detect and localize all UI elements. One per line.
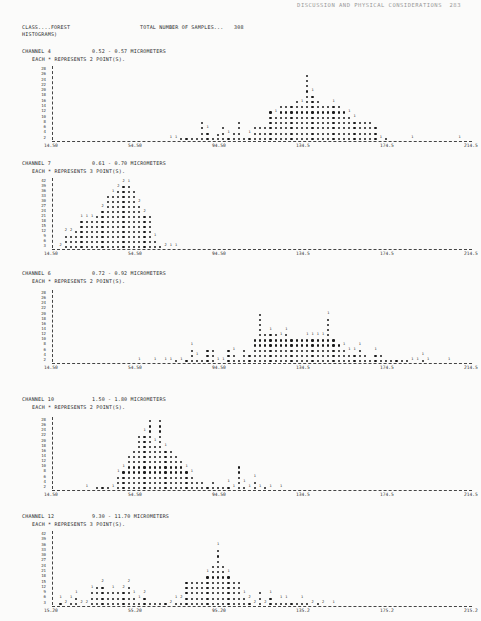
histogram-column: 1 [70,531,73,605]
star-mark [86,246,88,248]
star-mark [75,241,77,243]
star-mark [143,246,145,248]
star-mark [164,451,166,453]
star-mark [248,138,250,140]
star-mark [311,122,313,124]
histogram-column [96,417,99,489]
star-mark [254,344,256,346]
star-mark [206,587,208,589]
star-mark [191,360,193,362]
star-mark [285,344,287,346]
channel-title: CHANNEL 10 [22,396,54,402]
histogram-column: 1 [458,66,461,140]
star-mark [122,201,124,203]
histogram-column: 1 [448,290,451,362]
star-mark [217,550,219,552]
star-mark [332,111,334,113]
histogram-column: 1 [206,66,209,140]
channel-title: CHANNEL 6 [22,270,51,276]
star-mark [154,461,156,463]
star-mark [285,111,287,113]
y-axis-labels: 28 26 24 22 20 18 16 14 12 10 8 6 4 2 [30,417,46,489]
remainder-digit: 1 [332,600,334,605]
star-mark [101,221,103,223]
histogram-column: 1 [285,290,288,362]
histogram-column [238,417,241,489]
remainder-digit: 2 [170,600,172,605]
star-mark [75,603,77,605]
star-mark [149,231,151,233]
remainder-digit: 1 [259,484,261,489]
star-mark [285,133,287,135]
star-mark [233,138,235,140]
star-mark [311,101,313,103]
star-mark [317,339,319,341]
star-mark [280,355,282,357]
star-mark [143,456,145,458]
remainder-digit: 1 [422,352,424,357]
star-mark [70,603,72,605]
star-mark [128,587,130,589]
histogram-column [149,178,152,248]
star-mark [138,603,140,605]
star-mark [327,355,329,357]
star-mark [238,482,240,484]
star-mark [91,241,93,243]
star-mark [264,334,266,336]
star-mark [80,221,82,223]
remainder-digit: 2 [138,199,140,204]
histogram-column [301,290,304,362]
star-mark [322,344,324,346]
star-mark [201,598,203,600]
histogram-column: 1 [233,417,236,489]
star-mark [311,96,313,98]
star-mark [154,603,156,605]
star-mark [290,603,292,605]
star-mark [196,360,198,362]
star-mark [306,127,308,129]
histogram-column [170,417,173,489]
histogram-column [154,531,157,605]
histogram-column [254,290,257,362]
histogram-column [201,66,204,140]
star-mark [154,477,156,479]
star-mark [317,603,319,605]
star-mark [254,350,256,352]
histogram-column [380,290,383,362]
star-mark [275,127,277,129]
histogram-column: 2 [65,531,68,605]
star-mark [80,226,82,228]
histogram-column: 2 [254,531,257,605]
star-mark [317,344,319,346]
star-mark [138,461,140,463]
star-mark [238,122,240,124]
star-mark [269,339,271,341]
star-mark [70,236,72,238]
star-mark [254,360,256,362]
star-mark [170,482,172,484]
remainder-digit: 2 [122,585,124,590]
remainder-digit: 1 [233,347,235,352]
star-mark [180,466,182,468]
y-axis-labels: 28 26 24 22 20 18 16 14 12 10 8 6 4 2 [30,290,46,362]
channel-range: 0.61 - 0.70 MICROMETERS [92,160,166,166]
star-mark [96,226,98,228]
histogram-column: 1 [322,290,325,362]
star-mark [338,106,340,108]
star-mark [317,122,319,124]
star-mark [254,127,256,129]
star-mark [175,360,177,362]
star-mark [201,603,203,605]
star-mark [212,598,214,600]
remainder-digit: 1 [243,479,245,484]
star-mark [143,236,145,238]
star-mark [107,487,109,489]
remainder-digit: 1 [233,484,235,489]
histogram-column: 1 [317,290,320,362]
histogram-column: 1 [80,178,83,248]
remainder-digit: 1 [343,342,345,347]
star-mark [322,127,324,129]
star-mark [217,566,219,568]
star-mark [238,598,240,600]
star-mark [154,487,156,489]
